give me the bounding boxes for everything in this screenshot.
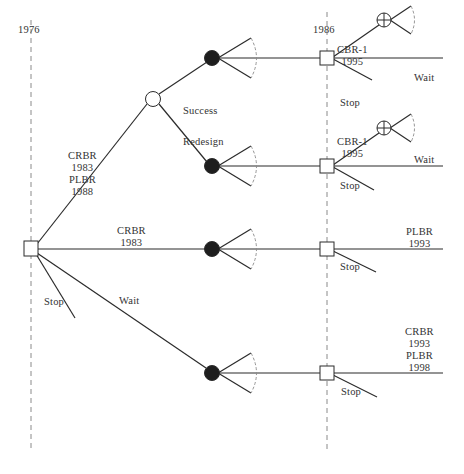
fan-wait bbox=[218, 353, 321, 393]
decision-node-1986-c bbox=[320, 242, 334, 256]
chance-node-redesign bbox=[205, 159, 220, 174]
decision-node-1986-d bbox=[320, 366, 334, 380]
fan-success bbox=[218, 38, 321, 78]
decision-tree-diagram bbox=[0, 0, 464, 474]
label-crbr-plbr-1983-1988: CRBR 1983 PLBR 1988 bbox=[68, 150, 97, 198]
chance-node-crbr bbox=[205, 242, 220, 257]
chance-node-success bbox=[205, 51, 220, 66]
branch-wait bbox=[37, 253, 206, 368]
root-decision-node bbox=[24, 241, 38, 256]
label-stop-a: Stop bbox=[340, 97, 360, 109]
arc-cbr-b bbox=[411, 114, 415, 142]
decision-node-1986-b bbox=[320, 159, 334, 173]
label-crbr-1983: CRBR 1983 bbox=[117, 225, 146, 249]
label-cbr1-1995-b: CBR-1 1995 bbox=[337, 136, 368, 160]
branch-stop-root bbox=[36, 254, 75, 318]
year-1986-label: 1986 bbox=[313, 24, 335, 36]
label-wait-a: Wait bbox=[414, 72, 434, 84]
chance-node-open bbox=[146, 92, 161, 107]
label-stop-c: Stop bbox=[340, 261, 360, 273]
label-wait-b: Wait bbox=[414, 154, 434, 166]
label-cbr1-1995-a: CBR-1 1995 bbox=[337, 44, 368, 68]
label-stop-b: Stop bbox=[340, 180, 360, 192]
decision-node-1986-a bbox=[320, 51, 334, 65]
crossed-chance-node-b bbox=[377, 121, 391, 135]
fan-redesign bbox=[218, 146, 321, 186]
label-stop-d: Stop bbox=[341, 386, 361, 398]
year-1976-label: 1976 bbox=[18, 24, 40, 36]
label-crbr-1993-plbr-1998: CRBR 1993 PLBR 1998 bbox=[405, 326, 434, 374]
chance-node-wait bbox=[205, 366, 220, 381]
branch-success bbox=[159, 62, 207, 94]
label-success: Success bbox=[183, 105, 218, 117]
crossed-chance-node-a bbox=[377, 13, 391, 27]
label-wait-root: Wait bbox=[119, 295, 139, 307]
arc-cbr-a bbox=[411, 6, 415, 34]
label-stop-root: Stop bbox=[44, 296, 64, 308]
fan-crbr bbox=[218, 229, 321, 269]
label-plbr-1993: PLBR 1993 bbox=[406, 226, 433, 250]
label-redesign: Redesign bbox=[183, 136, 224, 148]
